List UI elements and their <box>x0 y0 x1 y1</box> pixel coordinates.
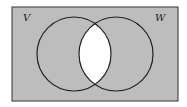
set-w-label: W <box>155 12 166 23</box>
venn-diagram: V W <box>0 0 187 107</box>
